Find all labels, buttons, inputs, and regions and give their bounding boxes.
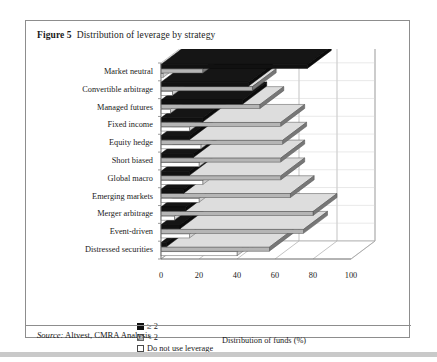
source-text: Altvest, CMRA Analysis	[63, 330, 150, 340]
x-axis-tick-label: 40	[223, 271, 251, 280]
y-axis-label: Short biased	[37, 156, 153, 166]
source-label: Source:	[37, 330, 63, 340]
white-swatch-icon	[137, 345, 144, 352]
y-axis-label: Managed futures	[37, 103, 153, 113]
chart-plot-area: Market neutralConvertible arbitrageManag…	[37, 49, 399, 287]
y-axis-label: Equity hedge	[37, 138, 153, 148]
y-axis-label: Global macro	[37, 174, 153, 184]
figure-caption: Figure 5Distribution of leverage by stra…	[37, 30, 215, 40]
y-axis-label: Event-driven	[37, 227, 153, 237]
chart-3d-canvas	[155, 49, 399, 281]
y-axis-label: Merger arbitrage	[37, 209, 153, 219]
x-axis-tick-label: 20	[185, 271, 213, 280]
x-axis-tick-label: 100	[337, 271, 365, 280]
x-axis-title: Distribution of funds (%)	[222, 336, 306, 345]
figure-caption-text: Distribution of leverage by strategy	[77, 30, 216, 40]
x-axis-tick-labels: 020406080100	[155, 271, 399, 285]
x-axis-tick-label: 60	[261, 271, 289, 280]
x-axis-tick-label: 0	[147, 271, 175, 280]
source-line: Source: Altvest, CMRA Analysis	[37, 330, 151, 340]
y-axis-category-labels: Market neutralConvertible arbitrageManag…	[37, 55, 153, 261]
page-bottom-rule	[0, 352, 437, 357]
y-axis-label: Convertible arbitrage	[37, 85, 153, 95]
y-axis-label: Distressed securities	[37, 245, 153, 255]
y-axis-label: Emerging markets	[37, 192, 153, 202]
legend-item-ge2: ≥ 2	[137, 321, 267, 332]
source-divider	[26, 325, 411, 326]
bars-svg	[155, 49, 399, 281]
y-axis-label: Market neutral	[37, 67, 153, 77]
y-axis-label: Fixed income	[37, 120, 153, 130]
figure-container: Figure 5Distribution of leverage by stra…	[25, 20, 410, 338]
x-axis-tick-label: 80	[299, 271, 327, 280]
figure-number: Figure 5	[37, 30, 72, 40]
